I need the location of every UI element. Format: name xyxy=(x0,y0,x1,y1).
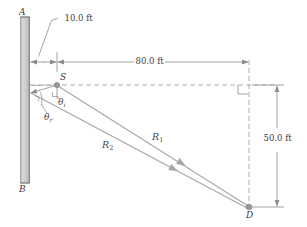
wall-group xyxy=(21,17,30,183)
ray-2-arrowhead xyxy=(168,164,178,174)
leader-line-10ft xyxy=(39,19,58,57)
figure-root: A B S D 10.0 ft 80.0 ft 50.0 ft R1 R2 θi… xyxy=(0,0,307,227)
ray-1-line xyxy=(58,86,248,206)
incident-ray-line xyxy=(31,85,57,93)
dimension-label-10ft: 10.0 ft xyxy=(63,14,94,23)
point-label-d: D xyxy=(246,211,253,220)
point-marker-source xyxy=(54,82,59,87)
angle-label-reflection-subscript: r xyxy=(49,116,52,123)
dimension-10ft-group xyxy=(31,19,58,73)
normal-right-angle-tick xyxy=(53,92,58,97)
ray-label-r2-subscript: 2 xyxy=(109,144,113,152)
dimension-label-50ft: 50.0 ft xyxy=(262,134,293,143)
ray-2-group xyxy=(31,93,247,208)
point-label-a: A xyxy=(19,8,26,17)
angle-label-incidence: θi xyxy=(58,98,65,107)
ray-label-r1: R1 xyxy=(152,132,163,142)
ray-2-line xyxy=(31,93,247,208)
angle-label-incidence-subscript: i xyxy=(63,101,65,108)
ray-label-r2: R2 xyxy=(102,140,113,150)
wall-body xyxy=(21,17,30,183)
ray-label-r1-subscript: 1 xyxy=(159,136,163,144)
right-angle-marker xyxy=(238,85,248,94)
dimension-label-80ft: 80.0 ft xyxy=(134,57,165,66)
angle-label-reflection: θr xyxy=(44,113,52,122)
ray-1-group xyxy=(58,86,248,206)
source-to-wall-upper-line xyxy=(31,85,57,86)
source-to-wall-group xyxy=(31,85,60,113)
dimension-50ft-group xyxy=(252,85,284,207)
point-label-s: S xyxy=(60,73,66,82)
point-marker-destination xyxy=(246,204,252,210)
point-label-b: B xyxy=(19,185,26,194)
